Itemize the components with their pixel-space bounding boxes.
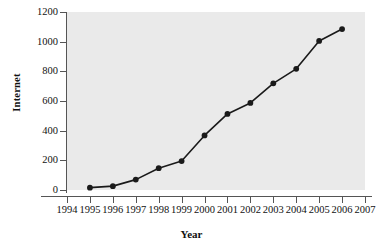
x-tick-mark	[342, 197, 343, 203]
x-tick-label: 2007	[348, 205, 382, 216]
x-tick-mark	[273, 197, 274, 203]
x-tick-mark	[205, 197, 206, 203]
y-tick-label: 1200	[18, 7, 58, 18]
y-tick-label: 800	[18, 66, 58, 77]
y-tick-label: 1000	[18, 37, 58, 48]
y-tick-mark	[60, 71, 66, 72]
internet-users-line-chart: 020040060080010001200 199419951996199719…	[0, 0, 383, 249]
y-axis-line	[66, 12, 67, 193]
y-tick-label: 400	[18, 126, 58, 137]
y-axis-title: Internet	[11, 58, 22, 128]
y-tick-mark	[60, 42, 66, 43]
x-axis-title: Year	[0, 228, 383, 240]
y-tick-mark	[60, 190, 66, 191]
y-tick-mark	[60, 101, 66, 102]
x-tick-mark	[365, 197, 366, 203]
x-tick-mark	[159, 197, 160, 203]
x-tick-mark	[182, 197, 183, 203]
y-tick-label: 200	[18, 155, 58, 166]
x-tick-mark	[136, 197, 137, 203]
x-tick-mark	[250, 197, 251, 203]
x-tick-mark	[227, 197, 228, 203]
x-tick-mark	[296, 197, 297, 203]
x-tick-mark	[113, 197, 114, 203]
y-tick-label: 0	[18, 185, 58, 196]
x-tick-mark	[319, 197, 320, 203]
y-tick-mark	[60, 12, 66, 13]
plot-area	[67, 12, 365, 190]
y-tick-label: 600	[18, 96, 58, 107]
y-tick-mark	[60, 131, 66, 132]
y-tick-mark	[60, 160, 66, 161]
x-tick-mark	[90, 197, 91, 203]
x-tick-mark	[67, 197, 68, 203]
